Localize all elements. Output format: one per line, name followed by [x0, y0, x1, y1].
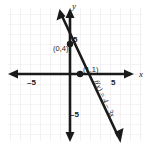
point-label-second: (1,1): [83, 66, 98, 74]
coordinate-plane-graph: y x –5 5 5 –5 (0,4) (1,1) f(x) = 4 – 3x: [0, 0, 150, 149]
x-tick-positive-5: 5: [111, 79, 115, 87]
graph-canvas: [0, 0, 150, 149]
x-tick-negative-5: –5: [27, 79, 36, 87]
point-label-y-intercept: (0,4): [53, 45, 68, 53]
y-tick-negative-5: –5: [70, 111, 79, 119]
y-axis-label: y: [72, 2, 76, 11]
y-tick-positive-5: 5: [73, 36, 77, 44]
x-axis-label: x: [139, 70, 143, 79]
